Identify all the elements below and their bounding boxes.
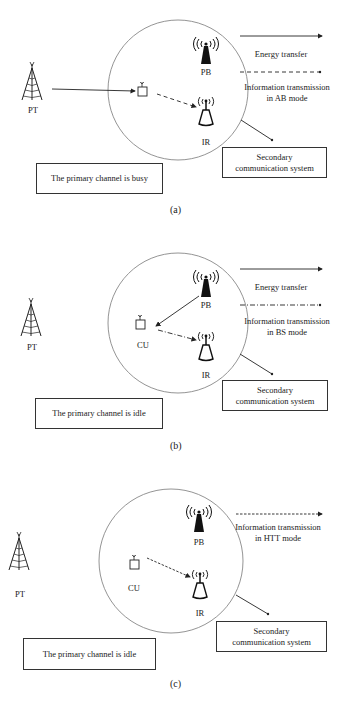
primary-transmitter-tower-icon	[21, 298, 41, 336]
secondary-system-circle	[108, 253, 248, 393]
ir-label: IR	[190, 608, 210, 618]
legend-energy-transfer: Energy transfer	[246, 49, 316, 60]
cognitive-user-icon	[138, 82, 147, 96]
link-pb-cu	[156, 296, 199, 326]
system-box: Secondary communication system	[216, 621, 327, 652]
system-box: Secondary communication system	[222, 147, 327, 178]
link-cu-ir	[157, 94, 196, 107]
pt-label: PT	[21, 342, 43, 352]
legend-info-line1: Information transmission	[232, 82, 342, 93]
pt-label: PT	[9, 589, 31, 599]
cu-label: CU	[133, 340, 153, 350]
legend-info-transmission: Information transmission in AB mode	[232, 82, 342, 104]
link-pt-cu	[52, 89, 135, 91]
caption-a: (a)	[170, 204, 181, 215]
pb-label: PB	[196, 300, 216, 310]
legend-info-line2: in BS mode	[232, 327, 342, 338]
link-cu-ir	[158, 330, 196, 340]
ir-label: IR	[196, 137, 216, 147]
system-box: Secondary communication system	[222, 380, 328, 411]
system-pointer	[236, 595, 268, 614]
system-box-line1: Secondary	[257, 385, 293, 396]
legend-info-line2: in AB mode	[232, 93, 342, 104]
panel-c	[9, 489, 322, 633]
legend-info-line1: Information transmission	[224, 522, 332, 533]
legend-info-line1: Information transmission	[232, 316, 342, 327]
system-pointer	[241, 120, 272, 140]
power-beacon-icon	[193, 37, 218, 64]
legend-energy-transfer: Energy transfer	[246, 282, 316, 293]
ir-label: IR	[196, 370, 216, 380]
pb-label: PB	[189, 537, 209, 547]
cognitive-user-icon	[130, 555, 139, 569]
cu-label: CU	[124, 583, 144, 593]
legend-info-line2: in HTT mode	[224, 533, 332, 544]
pb-label: PB	[196, 67, 216, 77]
system-box-line1: Secondary	[254, 626, 290, 637]
channel-status-box: The primary channel is idle	[23, 638, 156, 670]
pt-label: PT	[22, 105, 44, 115]
legend-info-transmission: Information transmission in HTT mode	[224, 522, 332, 544]
caption-c: (c)	[170, 678, 181, 689]
information-receiver-icon	[198, 97, 213, 126]
information-receiver-icon	[192, 570, 207, 599]
system-box-line2: communication system	[235, 163, 314, 174]
channel-status-box: The primary channel is idle	[35, 398, 163, 429]
system-box-line2: communication system	[236, 396, 315, 407]
power-beacon-icon	[186, 505, 211, 532]
system-box-line1: Secondary	[257, 152, 293, 163]
cognitive-user-icon	[136, 315, 145, 329]
primary-transmitter-tower-icon	[9, 532, 29, 570]
secondary-system-circle	[108, 20, 248, 160]
system-box-line2: communication system	[232, 637, 311, 648]
caption-b: (b)	[170, 440, 182, 451]
primary-transmitter-tower-icon	[22, 62, 42, 100]
diagram-canvas	[0, 0, 352, 706]
secondary-system-circle	[99, 489, 243, 633]
channel-status-box: The primary channel is busy	[36, 163, 163, 194]
information-receiver-icon	[198, 332, 213, 361]
link-cu-ir	[147, 558, 190, 577]
legend-info-transmission: Information transmission in BS mode	[232, 316, 342, 338]
system-pointer	[240, 354, 272, 374]
power-beacon-icon	[193, 270, 218, 297]
